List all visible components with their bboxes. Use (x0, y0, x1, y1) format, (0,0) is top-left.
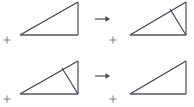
triangle-hypotenuse (130, 61, 186, 94)
origin-marker-icon (4, 37, 11, 44)
figure-top-left[interactable] (4, 2, 79, 44)
triangle-hypotenuse (130, 2, 186, 35)
triangle-hypotenuse (20, 2, 78, 35)
figure-bottom-right[interactable] (110, 61, 187, 103)
arrow-right-icon (95, 16, 110, 22)
origin-marker-icon (110, 37, 117, 44)
figure-bottom-left[interactable] (4, 61, 79, 103)
row-top (4, 2, 187, 44)
row-bottom (4, 61, 187, 103)
triangle-hypotenuse (20, 61, 78, 94)
triangle-cevian (62, 68, 78, 94)
triangle-cevian (170, 9, 186, 35)
arrow-tip (106, 16, 111, 22)
arrow-right-icon (95, 73, 110, 79)
arrow-tip (106, 73, 111, 79)
figure-board (0, 0, 194, 107)
origin-marker-icon (110, 96, 117, 103)
figure-top-right[interactable] (110, 2, 187, 44)
diagram-canvas (0, 0, 194, 107)
origin-marker-icon (4, 96, 11, 103)
